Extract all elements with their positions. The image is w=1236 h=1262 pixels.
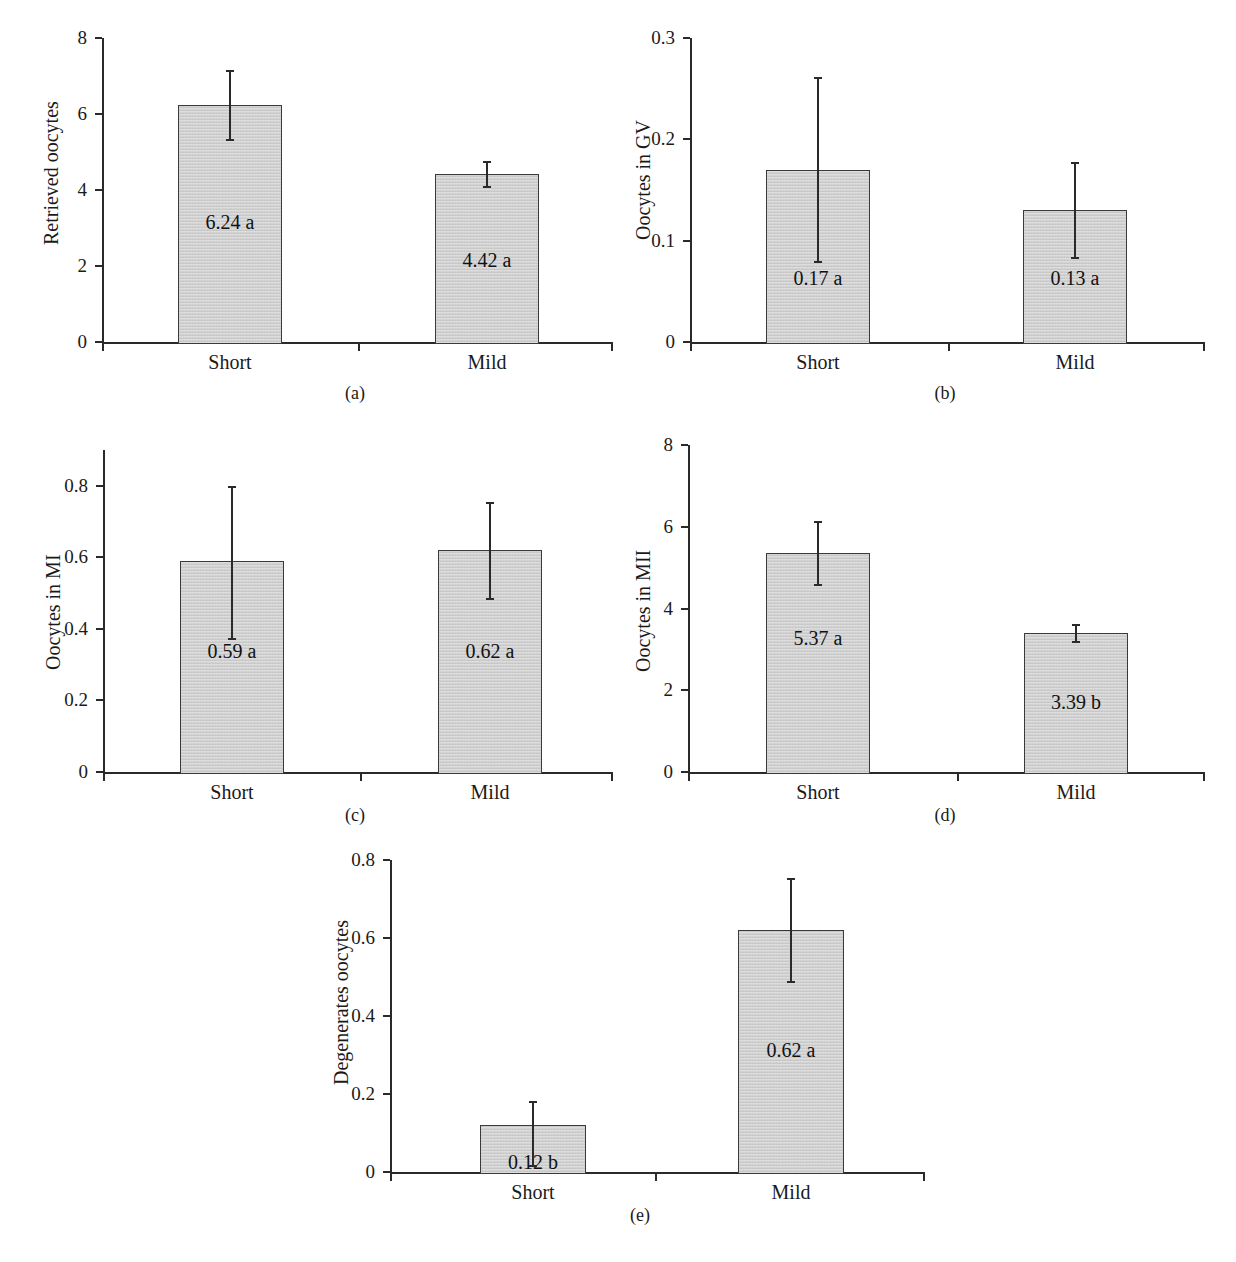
x-tick-d-2 (1203, 774, 1205, 781)
y-tick-a-2 (95, 189, 102, 191)
bar-value-label-b-short: 0.17 a (748, 268, 888, 288)
error-bar-cap-top-e-short (529, 1101, 537, 1103)
error-bar-stem-e-short (532, 1101, 534, 1167)
y-tick-d-2 (681, 608, 688, 610)
error-bar-stem-c-mild (489, 502, 491, 600)
y-tick-label-e-1: 0.2 (320, 1084, 375, 1103)
y-tick-label-c-4: 0.8 (33, 476, 88, 495)
panel-b-oocytes-in-gv (620, 0, 1236, 410)
error-bar-cap-bottom-a-short (226, 139, 234, 141)
x-tick-a-0 (102, 344, 104, 351)
panel-caption-e: (e) (580, 1205, 700, 1226)
y-tick-a-3 (95, 113, 102, 115)
y-tick-label-b-3: 0.3 (620, 28, 675, 47)
error-bar-cap-top-d-mild (1072, 624, 1080, 626)
error-bar-stem-d-short (817, 521, 819, 586)
error-bar-cap-bottom-b-mild (1071, 257, 1079, 259)
bar-value-label-c-short: 0.59 a (162, 641, 302, 661)
x-category-label-c-mild: Mild (410, 782, 570, 802)
error-bar-cap-bottom-e-short (529, 1165, 537, 1167)
x-tick-b-2 (1203, 344, 1205, 351)
error-bar-cap-bottom-c-short (228, 638, 236, 640)
x-category-label-e-short: Short (453, 1182, 613, 1202)
bar-value-label-d-short: 5.37 a (748, 628, 888, 648)
y-tick-label-e-4: 0.8 (320, 850, 375, 869)
y-tick-b-2 (683, 138, 690, 140)
x-axis-line-e (390, 1172, 925, 1174)
y-axis-label-b: Oocytes in GV (632, 120, 655, 240)
panel-caption-d: (d) (885, 805, 1005, 826)
y-axis-line-a (102, 38, 104, 344)
x-tick-e-1 (655, 1174, 657, 1181)
error-bar-stem-b-short (817, 77, 819, 263)
error-bar-cap-top-b-short (814, 77, 822, 79)
bar-value-label-c-mild: 0.62 a (420, 641, 560, 661)
y-tick-c-4 (96, 485, 103, 487)
y-tick-a-4 (95, 37, 102, 39)
y-tick-c-0 (96, 771, 103, 773)
error-bar-cap-bottom-b-short (814, 261, 822, 263)
x-category-label-e-mild: Mild (711, 1182, 871, 1202)
y-tick-label-b-0: 0 (620, 332, 675, 351)
y-axis-label-a: Retrieved oocytes (40, 101, 63, 245)
y-tick-e-2 (383, 1015, 390, 1017)
error-bar-cap-bottom-d-mild (1072, 641, 1080, 643)
y-tick-a-1 (95, 265, 102, 267)
error-bar-cap-top-a-mild (483, 161, 491, 163)
bar-value-label-a-mild: 4.42 a (417, 250, 557, 270)
x-category-label-b-mild: Mild (995, 352, 1155, 372)
x-tick-b-0 (690, 344, 692, 351)
x-tick-c-2 (611, 774, 613, 781)
x-tick-d-1 (957, 774, 959, 781)
x-tick-e-0 (390, 1174, 392, 1181)
x-category-label-d-short: Short (738, 782, 898, 802)
y-tick-label-d-1: 2 (618, 680, 673, 699)
y-tick-label-d-0: 0 (618, 762, 673, 781)
y-tick-label-c-0: 0 (33, 762, 88, 781)
bar-value-label-e-mild: 0.62 a (721, 1040, 861, 1060)
y-tick-e-3 (383, 937, 390, 939)
error-bar-stem-e-mild (790, 878, 792, 983)
x-tick-a-2 (611, 344, 613, 351)
panel-caption-b: (b) (885, 383, 1005, 404)
y-tick-d-0 (681, 771, 688, 773)
y-tick-a-0 (95, 341, 102, 343)
x-category-label-a-short: Short (150, 352, 310, 372)
panel-d-oocytes-in-mii (620, 420, 1236, 832)
y-tick-label-c-1: 0.2 (33, 690, 88, 709)
y-tick-label-a-0: 0 (32, 332, 87, 351)
y-tick-c-1 (96, 699, 103, 701)
error-bar-cap-top-d-short (814, 521, 822, 523)
error-bar-cap-top-c-short (228, 486, 236, 488)
x-tick-c-1 (360, 774, 362, 781)
y-tick-b-3 (683, 37, 690, 39)
y-tick-d-1 (681, 689, 688, 691)
error-bar-stem-c-short (231, 486, 233, 640)
y-tick-b-0 (683, 341, 690, 343)
y-tick-label-a-1: 2 (32, 256, 87, 275)
y-tick-c-3 (96, 556, 103, 558)
x-category-label-d-mild: Mild (996, 782, 1156, 802)
panel-caption-a: (a) (295, 383, 415, 404)
bar-value-label-d-mild: 3.39 b (1006, 692, 1146, 712)
y-tick-e-4 (383, 859, 390, 861)
y-axis-line-e (390, 860, 392, 1174)
y-tick-b-1 (683, 240, 690, 242)
panel-caption-c: (c) (295, 805, 415, 826)
x-category-label-a-mild: Mild (407, 352, 567, 372)
y-axis-line-c (103, 450, 105, 774)
error-bar-cap-top-e-mild (787, 878, 795, 880)
x-tick-d-0 (688, 774, 690, 781)
error-bar-cap-bottom-a-mild (483, 186, 491, 188)
y-tick-label-a-4: 8 (32, 28, 87, 47)
y-tick-c-2 (96, 628, 103, 630)
bar-value-label-b-mild: 0.13 a (1005, 268, 1145, 288)
y-axis-line-d (688, 445, 690, 774)
bar-value-label-a-short: 6.24 a (160, 212, 300, 232)
error-bar-cap-bottom-d-short (814, 584, 822, 586)
y-axis-label-e: Degenerates oocytes (330, 920, 353, 1085)
x-tick-e-2 (923, 1174, 925, 1181)
y-tick-d-4 (681, 444, 688, 446)
y-tick-label-d-4: 8 (618, 435, 673, 454)
error-bar-stem-a-mild (486, 161, 488, 188)
